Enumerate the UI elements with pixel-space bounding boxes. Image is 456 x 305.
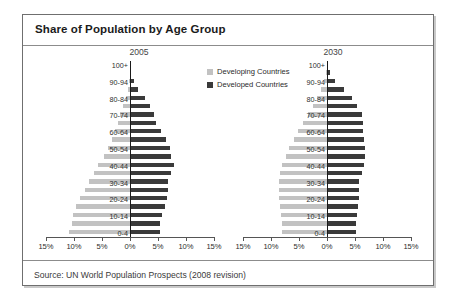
bar-developed: [327, 154, 365, 158]
x-axis-tick-label: 15%: [235, 242, 250, 251]
x-axis-tick-label: 0%: [322, 242, 333, 251]
legend-item-developing: Developing Countries: [207, 67, 290, 76]
bar-developed: [327, 188, 359, 192]
bar-developing: [76, 204, 130, 208]
chart-legend: Developing Countries Developed Countries: [207, 67, 290, 93]
bar-developed: [130, 230, 160, 234]
bar-developing: [280, 171, 327, 175]
bar-developing: [89, 179, 130, 183]
chart-frame: Share of Population by Age Group 2005 0-…: [22, 14, 434, 286]
bar-developed: [130, 213, 162, 217]
bar-developing: [282, 221, 327, 225]
bar-developed: [327, 163, 364, 167]
bar-developed: [327, 221, 356, 225]
bar-developed: [130, 112, 154, 116]
bar-developing: [112, 137, 130, 141]
x-axis-tick: [411, 237, 412, 241]
bar-developing: [294, 137, 327, 141]
legend-swatch-icon: [207, 82, 213, 88]
legend-item-developed: Developed Countries: [207, 80, 290, 89]
bar-developed: [327, 121, 363, 125]
bar-developing: [73, 213, 130, 217]
panel-year-label: 2005: [27, 47, 237, 57]
bar-developing: [313, 104, 327, 108]
panel-2005: 2005 0-410-1420-2430-3440-4450-5460-6470…: [27, 47, 223, 255]
x-axis-tick: [327, 237, 328, 241]
bar-developing: [279, 179, 327, 183]
bar-developing: [108, 146, 130, 150]
bar-developing: [279, 188, 327, 192]
source-note: Source: UN World Population Prospects (2…: [34, 270, 246, 280]
bar-developed: [130, 163, 174, 167]
legend-label: Developed Countries: [217, 80, 288, 89]
x-axis-tick-label: 15%: [403, 242, 418, 251]
x-axis-tick-label: 5%: [153, 242, 164, 251]
bar-developed: [327, 196, 359, 200]
x-axis-tick-label: 10%: [263, 242, 278, 251]
source-divider: [23, 260, 433, 261]
bar-developed: [327, 104, 357, 108]
x-axis-tick-label: 0%: [125, 242, 136, 251]
legend-label: Developing Countries: [217, 67, 290, 76]
x-axis-tick: [271, 237, 272, 241]
bar-developed: [327, 87, 344, 91]
x-axis-2005: 15%10%5%0%5%10%15%: [46, 237, 214, 257]
bar-developing: [98, 163, 130, 167]
bar-developed: [327, 179, 359, 183]
x-axis-tick-label: 15%: [38, 242, 53, 251]
bar-developed: [327, 79, 335, 83]
bar-developing: [303, 121, 327, 125]
x-axis-tick: [243, 237, 244, 241]
x-axis-tick-label: 15%: [206, 242, 221, 251]
x-axis-tick: [130, 237, 131, 241]
center-axis-line: [130, 61, 131, 237]
x-axis-tick: [383, 237, 384, 241]
x-axis-tick: [299, 237, 300, 241]
bar-developed: [327, 230, 356, 234]
bar-developing: [281, 213, 327, 217]
x-axis-tick-label: 5%: [97, 242, 108, 251]
bar-developed: [327, 213, 357, 217]
bar-developed: [130, 146, 170, 150]
x-axis-tick-label: 5%: [294, 242, 305, 251]
x-axis-tick: [74, 237, 75, 241]
bar-developed: [130, 171, 171, 175]
bar-developed: [130, 196, 167, 200]
figure-root: Share of Population by Age Group 2005 0-…: [0, 0, 456, 305]
bar-developed: [130, 204, 165, 208]
x-axis-tick-label: 10%: [66, 242, 81, 251]
panel-year-label: 2030: [229, 47, 431, 57]
bar-developing: [72, 221, 130, 225]
bar-developed: [130, 121, 156, 125]
bar-developing: [317, 96, 327, 100]
bar-developing: [118, 121, 130, 125]
x-axis-tick: [214, 237, 215, 241]
bar-developed: [327, 146, 365, 150]
bar-developed: [327, 96, 352, 100]
page-title: Share of Population by Age Group: [35, 23, 226, 35]
bar-developed: [327, 171, 362, 175]
bar-developed: [327, 204, 358, 208]
bar-developing: [123, 104, 130, 108]
bar-developing: [85, 188, 130, 192]
legend-swatch-icon: [207, 69, 213, 75]
plot-area-2005: 0-410-1420-2430-3440-4450-5460-6470-7480…: [46, 61, 214, 237]
bar-developing: [282, 230, 327, 234]
bar-developing: [104, 154, 130, 158]
x-axis-tick-label: 10%: [375, 242, 390, 251]
x-axis-tick: [186, 237, 187, 241]
bar-developed: [130, 129, 161, 133]
bar-developed: [130, 104, 150, 108]
bar-developing: [282, 163, 327, 167]
bar-developed: [130, 179, 168, 183]
bar-developed: [130, 87, 138, 91]
bar-developed: [327, 112, 362, 116]
bar-developing: [80, 196, 130, 200]
bar-developed: [130, 154, 171, 158]
bar-developing: [280, 204, 327, 208]
x-axis-2030: 15%10%5%0%5%10%15%: [243, 237, 411, 257]
bar-developed: [327, 129, 363, 133]
bar-developed: [130, 137, 166, 141]
bar-developing: [279, 196, 327, 200]
bar-developed: [130, 96, 145, 100]
